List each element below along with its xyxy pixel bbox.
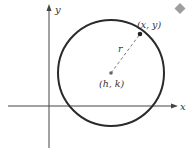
y-axis-arrow-icon: [47, 4, 52, 11]
center-point: [109, 71, 113, 75]
radius-label: r: [118, 43, 124, 54]
diamond-icon: [175, 3, 186, 14]
radius-line: [111, 34, 140, 73]
y-axis-label: y: [54, 4, 61, 15]
x-axis-arrow-icon: [171, 104, 178, 109]
center-label: (h, k): [99, 78, 125, 89]
circle-point: [138, 32, 143, 37]
x-axis-label: x: [180, 101, 186, 112]
circle-diagram: y x (x, y) r (h, k): [0, 0, 190, 155]
point-label: (x, y): [137, 19, 161, 30]
